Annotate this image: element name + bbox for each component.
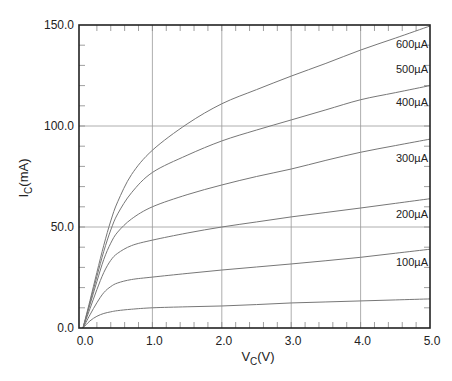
curve-200ua [83, 249, 430, 328]
y-axis-title: IC(mA) [16, 158, 34, 197]
curve-label: 600µA [396, 38, 429, 50]
curve-labels: 100µA200µA300µA400µA500µA600µA [396, 38, 429, 268]
curve-100ua [83, 299, 430, 328]
curves [83, 26, 430, 328]
x-tick-label: 3.0 [285, 334, 302, 348]
y-tick-label: 0.0 [57, 321, 74, 335]
curve-label: 400µA [396, 96, 429, 108]
y-tick-label: 50.0 [51, 220, 75, 234]
curve-label: 200µA [396, 208, 429, 220]
curve-label: 100µA [396, 256, 429, 268]
x-axis-title: VC(V) [241, 349, 274, 367]
x-tick-label: 1.0 [146, 334, 163, 348]
y-tick-labels: 0.050.0100.0150.0 [44, 18, 74, 335]
curve-500ua [83, 86, 430, 328]
x-tick-label: 5.0 [424, 334, 441, 348]
x-tick-labels: 0.01.02.03.04.05.0 [77, 334, 441, 348]
curve-label: 300µA [396, 152, 429, 164]
curve-400ua [83, 139, 430, 328]
iv-characteristic-chart: 0.01.02.03.04.05.0 0.050.0100.0150.0 100… [0, 0, 452, 381]
y-tick-label: 150.0 [44, 18, 74, 32]
curve-label: 500µA [396, 63, 429, 75]
y-tick-label: 100.0 [44, 119, 74, 133]
x-tick-label: 2.0 [215, 334, 232, 348]
x-tick-label: 4.0 [354, 334, 371, 348]
x-tick-label: 0.0 [77, 334, 94, 348]
